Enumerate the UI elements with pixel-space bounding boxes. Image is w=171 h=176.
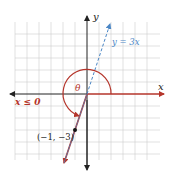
y-axis-label: y [92, 11, 99, 22]
line-y-equals-3x-upper [87, 24, 110, 94]
coordinate-plane: y x y = 3x θ x ≤ 0 (−1, −3) [0, 0, 171, 176]
domain-label: x ≤ 0 [14, 97, 41, 107]
line-label: y = 3x [111, 37, 140, 47]
x-axis-label: x [158, 81, 164, 92]
point-label: (−1, −3) [37, 132, 74, 142]
theta-label: θ [75, 83, 81, 93]
